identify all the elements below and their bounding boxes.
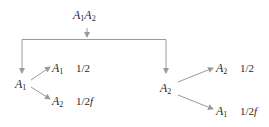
- left-node: A1: [15, 78, 26, 94]
- right-lower-child: A1: [216, 105, 227, 121]
- node-subscript: 2: [167, 87, 171, 96]
- child-subscript: 1: [223, 110, 227, 119]
- left-lower-child: A2: [52, 95, 63, 111]
- left-upper-branch-arrow: [31, 67, 50, 80]
- tree-connectors: [0, 0, 269, 127]
- right-upper-probability: 1/2: [240, 63, 254, 74]
- child-subscript: 2: [59, 100, 63, 109]
- right-upper-branch-arrow: [178, 68, 213, 82]
- right-node: A2: [160, 82, 171, 98]
- left-upper-probability: 1/2: [76, 63, 90, 74]
- left-lower-probability: 1/2f: [76, 96, 93, 107]
- right-lower-branch-arrow: [178, 95, 213, 109]
- left-lower-branch-arrow: [31, 87, 50, 99]
- root-subscript-2: 2: [92, 14, 96, 23]
- child-subscript: 1: [59, 67, 63, 76]
- child-subscript: 2: [223, 67, 227, 76]
- node-subscript: 1: [22, 83, 26, 92]
- left-upper-child: A1: [52, 62, 63, 78]
- right-upper-child: A2: [216, 62, 227, 78]
- root-node: A1A2: [73, 9, 96, 25]
- root-symbol-2: A: [84, 8, 91, 22]
- right-lower-probability: 1/2f: [240, 106, 257, 117]
